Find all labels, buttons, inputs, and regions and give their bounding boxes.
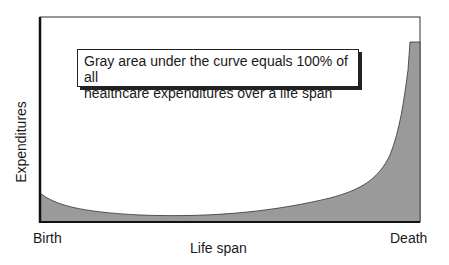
annotation-line-1: Gray area under the curve equals 100% of… xyxy=(84,53,358,85)
annotation-line-2: healthcare expenditures over a life span xyxy=(84,85,358,101)
x-tick-death: Death xyxy=(390,230,427,246)
y-axis-label: Expenditures xyxy=(13,92,29,192)
chart-plot xyxy=(0,0,449,265)
annotation-box: Gray area under the curve equals 100% of… xyxy=(77,49,359,87)
x-tick-birth: Birth xyxy=(33,230,62,246)
x-axis-label: Life span xyxy=(190,240,247,256)
